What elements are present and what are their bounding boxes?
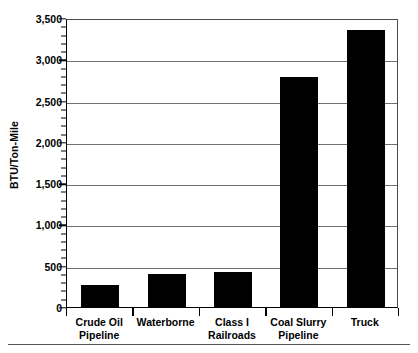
plot-area [66, 19, 398, 308]
y-axis-tick-label: 2,000 [8, 137, 62, 149]
y-axis-tick-label: 0 [8, 302, 62, 314]
x-axis-tick [265, 308, 266, 316]
x-axis-category-label-line: Railroads [199, 329, 265, 342]
x-axis-category-label-line: Truck [351, 316, 379, 328]
bar [214, 272, 252, 307]
x-axis-tick [132, 308, 133, 316]
y-axis-major-tick [59, 18, 66, 19]
x-axis-tick [199, 308, 200, 316]
x-axis-category-label-line: Waterborne [137, 316, 195, 328]
x-axis-category-label-line: Crude Oil [76, 316, 123, 328]
y-axis-tick-label: 1,000 [8, 219, 62, 231]
y-axis-major-tick [59, 101, 66, 102]
x-axis-category-label-line: Class I [215, 316, 249, 328]
y-axis-major-tick [59, 266, 66, 267]
y-axis-tick-label: 2,500 [8, 96, 62, 108]
y-axis-tick-label: 3,000 [8, 54, 62, 66]
x-axis-category-label: Waterborne [132, 316, 198, 329]
x-axis-category-label-line: Pipeline [66, 329, 132, 342]
y-axis-title: BTU/Ton-Mile [2, 100, 26, 210]
x-axis-tick [398, 308, 399, 316]
bottom-divider-rule [8, 344, 410, 345]
x-axis-category-label-line: Coal Slurry [270, 316, 326, 328]
y-axis-major-tick [59, 142, 66, 143]
x-axis-tick [66, 308, 67, 316]
y-axis-tick-label: 500 [8, 261, 62, 273]
x-axis-tick [332, 308, 333, 316]
y-axis-major-tick [59, 183, 66, 184]
bar-chart-figure: BTU/Ton-Mile 05001,0001,5002,0002,5003,0… [0, 0, 418, 353]
x-axis-category-label: Coal SlurryPipeline [265, 316, 331, 342]
bar [347, 30, 385, 307]
x-axis-category-label: Class IRailroads [199, 316, 265, 342]
x-axis-category-label-line: Pipeline [265, 329, 331, 342]
bar [81, 285, 119, 307]
bar [280, 77, 318, 307]
bar [148, 274, 186, 307]
x-axis-category-label: Crude OilPipeline [66, 316, 132, 342]
y-axis-major-tick [59, 307, 66, 308]
y-axis-tick-label: 1,500 [8, 178, 62, 190]
y-axis-major-tick [59, 225, 66, 226]
x-axis-category-label: Truck [332, 316, 398, 329]
y-axis-tick-label: 3,500 [8, 13, 62, 25]
y-axis-major-tick [59, 60, 66, 61]
